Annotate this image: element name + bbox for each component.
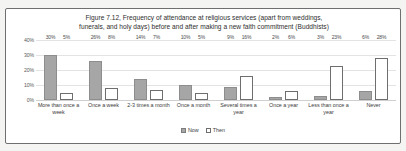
y-axis-tick-10: 10% (12, 82, 34, 88)
bar-then: 28% (375, 58, 388, 100)
bar-holder: 8% (105, 40, 118, 100)
legend-label: Then (213, 127, 225, 133)
bar-then: 8% (105, 88, 118, 100)
bar-value-label: 8% (108, 34, 115, 40)
bar-holder: 28% (375, 40, 388, 100)
bar-holder: 5% (60, 40, 73, 100)
gridline-baseline (36, 100, 396, 101)
bar-value-label: 10% (181, 34, 191, 40)
bar-then: 5% (60, 93, 73, 101)
bar-group: 14%7% (126, 40, 171, 100)
bar-value-label: 16% (242, 34, 252, 40)
bar-then: 5% (195, 93, 208, 101)
bar-group: 9%16% (216, 40, 261, 100)
bar-then: 7% (150, 90, 163, 101)
bar-now: 30% (44, 55, 57, 100)
chart-legend: NowThen (6, 127, 400, 133)
bar-holder: 9% (224, 40, 237, 100)
bar-holder: 14% (134, 40, 147, 100)
bar-then: 6% (285, 91, 298, 100)
y-axis-tick-20: 20% (12, 67, 34, 73)
bar-value-label: 5% (63, 34, 70, 40)
bar-holder: 2% (269, 40, 282, 100)
bar-holder: 16% (240, 40, 253, 100)
legend-swatch-icon (181, 128, 186, 133)
bar-value-label: 28% (377, 34, 387, 40)
chart-title: Figure 7.12, Frequency of attendance at … (28, 14, 380, 31)
bar-holder: 10% (179, 40, 192, 100)
chart-frame: Figure 7.12, Frequency of attendance at … (5, 8, 401, 144)
legend-swatch-icon (206, 128, 211, 133)
chart-title-line-1: Figure 7.12, Frequency of attendance at … (86, 14, 323, 21)
bar-value-label: 6% (362, 34, 369, 40)
bar-now: 26% (89, 61, 102, 100)
x-axis-label: 2-3 times a month (126, 102, 171, 116)
x-axis-label: Once a year (261, 102, 306, 116)
bar-value-label: 2% (272, 34, 279, 40)
bar-value-label: 23% (332, 34, 342, 40)
bar-now: 10% (179, 85, 192, 100)
bar-now: 6% (359, 91, 372, 100)
x-axis: More than once a weekOnce a week2-3 time… (36, 102, 396, 116)
bar-group: 3%23% (306, 40, 351, 100)
chart-title-line-2: funerals, and holy days) before and afte… (79, 23, 329, 30)
bar-holder: 6% (285, 40, 298, 100)
bar-holder: 23% (330, 40, 343, 100)
bar-value-label: 3% (317, 34, 324, 40)
bar-group: 10%5% (171, 40, 216, 100)
bar-value-label: 7% (153, 34, 160, 40)
x-axis-label: More than once a week (36, 102, 81, 116)
bar-holder: 26% (89, 40, 102, 100)
x-axis-label: Several times a year (216, 102, 261, 116)
bar-groups: 30%5%26%8%14%7%10%5%9%16%2%6%3%23%6%28% (36, 40, 396, 100)
x-axis-label: Once a week (81, 102, 126, 116)
bar-holder: 5% (195, 40, 208, 100)
bar-group: 2%6% (261, 40, 306, 100)
legend-item-then[interactable]: Then (206, 127, 225, 133)
x-axis-label: Never (351, 102, 396, 116)
y-axis-tick-30: 30% (12, 52, 34, 58)
bar-group: 6%28% (351, 40, 396, 100)
bar-then: 16% (240, 76, 253, 100)
y-axis: 40% 30% 20% 10% 0% (12, 40, 34, 100)
bar-value-label: 5% (198, 34, 205, 40)
x-axis-label: Less than once a year (306, 102, 351, 116)
bar-group: 26%8% (81, 40, 126, 100)
bar-holder: 3% (314, 40, 327, 100)
bar-value-label: 6% (288, 34, 295, 40)
bar-then: 23% (330, 66, 343, 101)
bar-group: 30%5% (36, 40, 81, 100)
y-axis-tick-40: 40% (12, 37, 34, 43)
bar-holder: 30% (44, 40, 57, 100)
bar-holder: 7% (150, 40, 163, 100)
figure-container: Figure 7.12, Frequency of attendance at … (0, 0, 406, 151)
plot-area: 40% 30% 20% 10% 0% 30%5%26%8%14%7%10%5%9… (6, 40, 400, 112)
legend-label: Now (188, 127, 199, 133)
bar-holder: 6% (359, 40, 372, 100)
bar-value-label: 26% (91, 34, 101, 40)
bar-value-label: 14% (136, 34, 146, 40)
bar-value-label: 30% (46, 34, 56, 40)
bar-now: 3% (314, 96, 327, 101)
bar-now: 14% (134, 79, 147, 100)
legend-item-now[interactable]: Now (181, 127, 199, 133)
x-axis-label: Once a month (171, 102, 216, 116)
bar-value-label: 9% (227, 34, 234, 40)
bar-now: 9% (224, 87, 237, 101)
y-axis-tick-0: 0% (12, 97, 34, 103)
bar-now: 2% (269, 97, 282, 100)
